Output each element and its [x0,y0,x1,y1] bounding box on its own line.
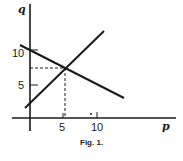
supply-demand-chart: q p 10 5 5 10 Fig. 1. [0,0,183,161]
y-tick-label-5: 5 [18,79,24,91]
rising-line [25,31,104,108]
y-axis-label: q [18,3,26,16]
x-tick-label-5: 5 [59,121,65,133]
x-axis-label: p [162,120,170,133]
figure-caption: Fig. 1. [80,138,103,147]
x-tick-label-10: 10 [91,121,103,133]
x-tick-mark-dot [90,113,92,115]
falling-line [20,45,124,98]
y-tick-label-10: 10 [12,47,24,59]
